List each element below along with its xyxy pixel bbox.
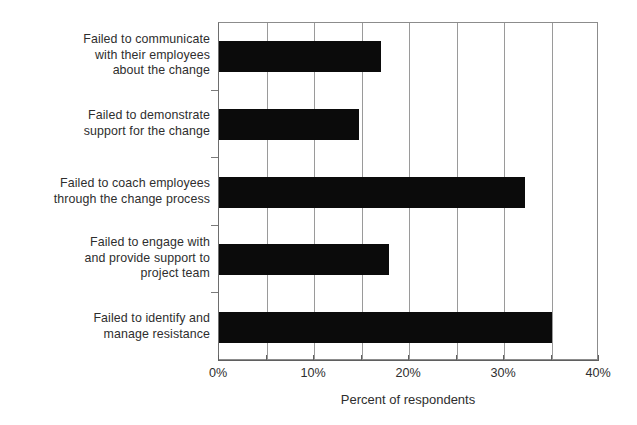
x-axis-tick-label: 10% [283, 366, 343, 380]
category-axis-labels: Failed to communicate with their employe… [8, 22, 210, 360]
x-axis-title: Percent of respondents [218, 392, 598, 407]
y-axis-tick [211, 292, 218, 293]
category-label: Failed to coach employees through the ch… [8, 176, 210, 207]
y-axis-tick [211, 225, 218, 226]
bar [219, 177, 525, 208]
x-axis-tick [503, 355, 504, 361]
bar [219, 244, 389, 275]
bar [219, 109, 359, 140]
category-label: Failed to demonstrate support for the ch… [8, 108, 210, 139]
bar [219, 312, 552, 343]
x-axis-tick [218, 355, 219, 361]
x-axis-tick [266, 355, 267, 361]
category-label: Failed to communicate with their employe… [8, 32, 210, 79]
category-label: Failed to engage with and provide suppor… [8, 235, 210, 282]
x-axis-tick-label: 40% [568, 366, 628, 380]
x-axis-tick-label: 20% [378, 366, 438, 380]
gridline [552, 23, 553, 359]
x-axis-tick [456, 355, 457, 361]
y-axis-tick [211, 90, 218, 91]
x-axis-tick [551, 355, 552, 361]
category-label: Failed to identify and manage resistance [8, 311, 210, 342]
x-axis-tick [361, 355, 362, 361]
y-axis-tick [211, 157, 218, 158]
x-axis-tick [313, 355, 314, 361]
x-axis-tick [598, 355, 599, 361]
x-axis-tick [408, 355, 409, 361]
plot-area [218, 22, 598, 360]
bar-chart: Failed to communicate with their employe… [0, 0, 637, 425]
x-axis-tick-label: 0% [188, 366, 248, 380]
bar [219, 41, 381, 72]
x-axis-tick-label: 30% [473, 366, 533, 380]
